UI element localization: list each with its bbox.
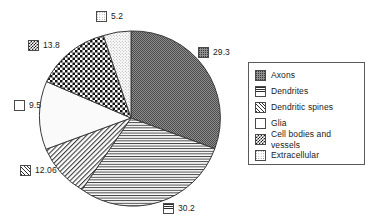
legend-swatch-fine-dots <box>255 150 266 161</box>
callout-swatch-stipple <box>198 47 209 58</box>
callout-extracellular: 5.2 <box>96 11 123 22</box>
callout-swatch-hlines <box>163 203 174 214</box>
callout-value-glia: 9.5 <box>29 100 41 111</box>
legend-swatch-diagonal <box>255 102 266 113</box>
callout-dendritic-spines: 12.06 <box>20 165 57 176</box>
pie-chart-figure: 5.2 13.8 29.3 9.5 12.06 30.2 Axons Dendr… <box>0 0 380 223</box>
callout-axons: 29.3 <box>198 47 230 58</box>
legend-swatch-checkerboard <box>255 134 266 145</box>
callout-dendrites: 30.2 <box>163 203 195 214</box>
callout-value-extracellular: 5.2 <box>111 11 123 22</box>
callout-value-cell-bodies: 13.8 <box>43 40 60 51</box>
callout-value-dendrites: 30.2 <box>178 203 195 214</box>
legend-item-dendrites: Dendrites <box>255 84 359 99</box>
legend-swatch-stipple <box>255 70 266 81</box>
callout-value-axons: 29.3 <box>213 47 230 58</box>
callout-glia: 9.5 <box>14 100 41 111</box>
callout-value-dendritic-spines: 12.06 <box>35 165 57 176</box>
legend-label-dendrites: Dendrites <box>271 86 308 97</box>
legend-item-dendritic-spines: Dendritic spines <box>255 100 359 115</box>
callout-swatch-diagonal <box>20 165 31 176</box>
legend-swatch-hlines <box>255 86 266 97</box>
callout-cell-bodies: 13.8 <box>28 40 60 51</box>
legend-label-extracellular: Extracellular <box>271 150 319 161</box>
callout-swatch-fine-dots <box>96 11 107 22</box>
legend-label-axons: Axons <box>271 70 295 81</box>
callout-swatch-checkerboard <box>28 40 39 51</box>
legend-swatch-plain <box>255 118 266 129</box>
legend-item-cell-bodies: Cell bodies and vessels <box>255 132 359 147</box>
legend-label-dendritic-spines: Dendritic spines <box>271 102 333 113</box>
chart-legend: Axons Dendrites Dendritic spines Glia Ce… <box>248 62 365 165</box>
legend-item-axons: Axons <box>255 68 359 83</box>
callout-swatch-plain <box>14 100 25 111</box>
legend-label-cell-bodies: Cell bodies and vessels <box>271 129 359 151</box>
legend-label-glia: Glia <box>271 118 287 129</box>
